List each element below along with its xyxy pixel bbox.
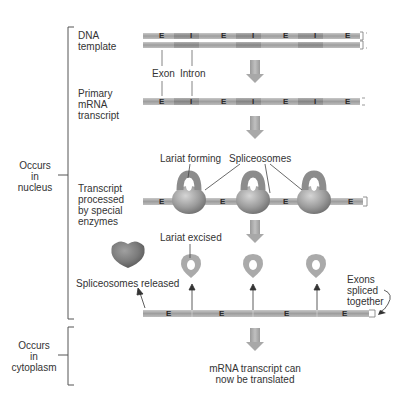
spliceosomes-annotation: Spliceosomes bbox=[229, 153, 291, 164]
mrna-exon-4: E bbox=[345, 97, 350, 106]
dna-exon-4: E bbox=[345, 31, 350, 40]
nucleus-bracket bbox=[58, 27, 74, 319]
cytoplasm-bracket bbox=[58, 327, 74, 385]
intron-annotation: Intron bbox=[180, 68, 206, 79]
spliced-exon-2: E bbox=[219, 309, 224, 318]
processed-exon-4: E bbox=[348, 197, 353, 206]
dna-template-strand bbox=[143, 32, 367, 49]
dna-intron-2: I bbox=[252, 31, 254, 40]
lariat-forming-annotation: Lariat forming bbox=[160, 153, 221, 164]
dna-exon-2: E bbox=[221, 31, 226, 40]
spliceosome-1 bbox=[172, 174, 206, 214]
down-arrow-4 bbox=[246, 328, 264, 351]
mrna-exon-1: E bbox=[159, 97, 164, 106]
mrna-exon-3: E bbox=[283, 97, 288, 106]
excised-lariat-2 bbox=[243, 254, 263, 278]
spliceosome-2 bbox=[236, 174, 270, 214]
spliced-strand bbox=[143, 310, 375, 317]
cytoplasm-label: Occurs in cytoplasm bbox=[10, 340, 58, 373]
dna-template-label: DNA template bbox=[78, 30, 116, 52]
down-arrow-2 bbox=[246, 116, 264, 139]
down-arrow-1 bbox=[246, 60, 264, 83]
processed-exon-3: E bbox=[283, 197, 288, 206]
down-arrow-3 bbox=[246, 220, 264, 243]
excised-lariat-3 bbox=[306, 254, 326, 278]
spliced-exon-1: E bbox=[166, 309, 171, 318]
mrna-intron-1: I bbox=[190, 97, 192, 106]
translated-annotation: mRNA transcript can now be translated bbox=[195, 363, 315, 385]
spliceosome-3 bbox=[297, 174, 331, 214]
primary-transcript-label: Primary mRNA transcript bbox=[78, 88, 119, 121]
mrna-intron-2: I bbox=[252, 97, 254, 106]
diagram-graphics bbox=[0, 0, 416, 408]
spliceosomes-released-annotation: Spliceosomes released bbox=[76, 278, 179, 289]
dna-exon-1: E bbox=[159, 31, 164, 40]
mrna-intron-3: I bbox=[314, 97, 316, 106]
lariat-excised-annotation: Lariat excised bbox=[160, 232, 222, 243]
released-spliceosome bbox=[111, 241, 144, 268]
excised-lariat-1 bbox=[181, 254, 201, 278]
dna-exon-3: E bbox=[283, 31, 288, 40]
nucleus-label: Occurs in nucleus bbox=[14, 160, 56, 193]
processed-transcript-label: Transcript processed by special enzymes bbox=[78, 183, 124, 227]
spliced-exon-3: E bbox=[284, 309, 289, 318]
exons-spliced-annotation: Exons spliced together bbox=[347, 274, 384, 307]
exon-annotation: Exon bbox=[152, 68, 175, 79]
spliced-exon-4: E bbox=[342, 309, 347, 318]
mrna-exon-2: E bbox=[221, 97, 226, 106]
processed-exon-1: E bbox=[159, 197, 164, 206]
dna-intron-3: I bbox=[314, 31, 316, 40]
dna-intron-1: I bbox=[190, 31, 192, 40]
processed-exon-2: E bbox=[220, 197, 225, 206]
